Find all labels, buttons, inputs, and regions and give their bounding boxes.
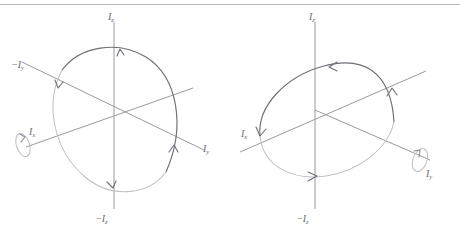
orbit-arrow-top-right-panel — [329, 62, 337, 71]
orbit-arrow-bottom-left-panel — [107, 181, 116, 188]
label-z-top-right: Iz — [308, 11, 315, 23]
figure-root: Iz −Iz −Iy Iy Ix — [0, 0, 460, 235]
label-z-bottom-left: −Iz — [96, 213, 108, 225]
label-x-left-panel: Ix — [28, 126, 35, 138]
diagram-panel-left: Iz −Iz −Iy Iy Ix — [0, 0, 230, 235]
diagram-panel-right: Iz −Iz Ix Iy — [230, 0, 460, 235]
orbit-arrows-left — [55, 49, 178, 188]
label-x-right-panel: Ix — [240, 128, 247, 140]
label-y-right-left: Iy — [202, 143, 209, 155]
label-z-top-left: Iz — [107, 11, 114, 23]
orbit-arrows-right — [256, 62, 397, 181]
axis-y-right — [315, 110, 430, 160]
orbit-path-right — [260, 63, 394, 177]
axis-x-left — [26, 88, 193, 147]
axis-x-right — [240, 71, 426, 152]
orbit-arrow-top-left-panel — [117, 49, 124, 56]
label-z-bottom-right: −Iz — [297, 213, 309, 225]
label-y-left-left: −Iy — [12, 59, 24, 71]
label-y-right-panel: Iy — [425, 168, 432, 180]
orbit-path-left — [53, 47, 177, 191]
orbit-arrow-x-right-panel — [256, 127, 266, 136]
